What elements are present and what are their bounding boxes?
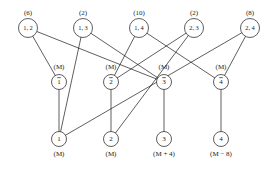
node-cost-label: (M) [159, 63, 171, 71]
node-label: 1 [57, 135, 61, 143]
graph-node[interactable]: 2(M) [104, 63, 119, 90]
node-label: 4 [219, 78, 223, 86]
graph-node[interactable]: 1, 2(6) [19, 9, 38, 38]
graph-node[interactable]: 4(M − 8) [210, 132, 233, 159]
node-cost-label: (6) [24, 9, 33, 17]
node-label: 3 [162, 78, 166, 86]
node-cost-label: (M) [106, 150, 118, 158]
node-cost-label: (M) [54, 63, 66, 71]
node-cost-label: (M + 4) [153, 150, 176, 158]
graph-edge [115, 36, 188, 133]
node-cost-label: (2) [190, 9, 199, 17]
node-label: 2 [109, 135, 113, 143]
graph-node[interactable]: 1(M) [52, 63, 67, 90]
graph-edge [147, 33, 215, 78]
graph-node[interactable]: 2(M) [104, 132, 119, 159]
nodes-layer: 1, 2(6)1, 3(2)1, 4(10)2, 3(2)2, 4(8)1(M)… [19, 9, 260, 158]
node-cost-label: (M) [54, 150, 66, 158]
graph-node[interactable]: 3(M) [157, 63, 172, 90]
graph-edge [225, 36, 246, 75]
assignment-network-diagram: 1, 2(6)1, 3(2)1, 4(10)2, 3(2)2, 4(8)1(M)… [0, 0, 280, 169]
graph-edge [37, 32, 157, 80]
node-label: 1 [57, 78, 61, 86]
node-cost-label: (M) [216, 63, 228, 71]
graph-node[interactable]: 4(M) [214, 63, 229, 90]
node-cost-label: (M) [106, 63, 118, 71]
node-cost-label: (M − 8) [210, 150, 233, 158]
node-label: 1, 2 [23, 24, 33, 31]
node-label: 2, 3 [189, 24, 199, 31]
node-cost-label: (2) [79, 9, 88, 17]
graph-node[interactable]: 3(M + 4) [153, 132, 176, 159]
graph-node[interactable]: 2, 3(2) [185, 9, 204, 38]
node-label: 1, 4 [134, 24, 144, 31]
graph-edge [33, 36, 56, 75]
node-label: 4 [219, 135, 223, 143]
graph-node[interactable]: 1, 4(10) [130, 9, 149, 38]
graph-canvas: 1, 2(6)1, 3(2)1, 4(10)2, 3(2)2, 4(8)1(M)… [0, 0, 280, 169]
node-cost-label: (8) [246, 9, 255, 17]
graph-node[interactable]: 2, 4(8) [241, 9, 260, 38]
graph-node[interactable]: 1(M) [52, 132, 67, 159]
node-label: 2 [109, 78, 113, 86]
graph-node[interactable]: 1, 3(2) [74, 9, 93, 38]
node-label: 2, 4 [245, 24, 255, 31]
node-label: 1, 3 [78, 24, 88, 31]
node-cost-label: (10) [133, 9, 145, 17]
node-label: 3 [162, 135, 166, 143]
